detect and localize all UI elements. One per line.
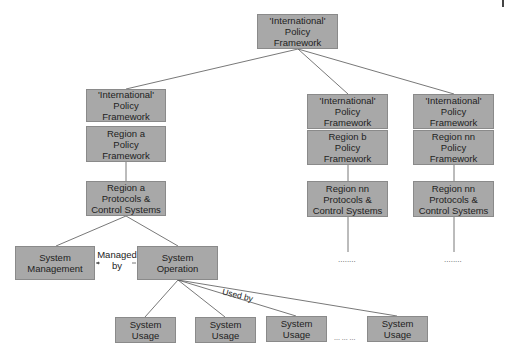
region-nn-protocols-control-systems: Region nn Protocols & Control Systems (413, 181, 494, 217)
system-management: System Management (15, 246, 95, 280)
connector-lines (0, 0, 505, 355)
root-international-policy-framework: 'International' Policy Framework (257, 14, 338, 49)
column-nn-continuation: ........ (444, 255, 462, 264)
region-b-policy-framework: Region b Policy Framework (307, 130, 388, 165)
usage-continuation: ... ... ... (334, 334, 355, 341)
system-usage-2: System Usage (195, 317, 256, 343)
region-nn-policy-framework: Region nn Policy Framework (413, 130, 494, 165)
column-b-continuation: ........ (338, 255, 356, 264)
system-operation: System Operation (137, 246, 218, 280)
region-nn-protocols-control-systems-b: Region nn Protocols & Control Systems (307, 181, 388, 217)
system-usage-3: System Usage (266, 316, 327, 342)
system-usage-n: System Usage (367, 316, 428, 342)
region-a-protocols-control-systems: Region a Protocols & Control Systems (86, 181, 166, 216)
system-usage-1: System Usage (115, 317, 176, 343)
managed-by-label: Managed by (97, 249, 137, 271)
region-a-policy-framework: Region a Policy Framework (86, 126, 166, 162)
column-nn-international-policy-framework: 'International' Policy Framework (413, 94, 494, 129)
column-a-international-policy-framework: 'International' Policy Framework (86, 89, 166, 122)
column-b-international-policy-framework: 'International' Policy Framework (307, 94, 388, 129)
